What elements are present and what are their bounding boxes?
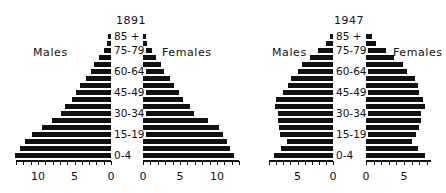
bar-males-30-34 bbox=[278, 111, 333, 116]
tick bbox=[305, 161, 306, 165]
bar-females-15-19 bbox=[366, 132, 416, 137]
bar-females-75-79 bbox=[366, 48, 386, 53]
bar-males-40-44 bbox=[276, 97, 333, 102]
bar-females-0-4 bbox=[366, 153, 425, 158]
tick bbox=[389, 161, 390, 165]
bar-females-35-39 bbox=[366, 104, 425, 109]
bar-males-15-19 bbox=[280, 132, 333, 137]
tick bbox=[283, 161, 284, 165]
bar-males-5-9 bbox=[281, 146, 333, 151]
x-axis-females bbox=[366, 160, 431, 162]
tick bbox=[319, 161, 320, 165]
pyramid-1947: 1947 Males Females 0-415-1930-3445-4960-… bbox=[0, 0, 446, 193]
tick bbox=[276, 161, 277, 165]
tick bbox=[366, 161, 367, 165]
bar-females-40-44 bbox=[366, 97, 423, 102]
bar-males-10-14 bbox=[287, 139, 333, 144]
bar-females-85 bbox=[366, 34, 372, 39]
bar-males-70-74 bbox=[310, 55, 333, 60]
tick-label: 0 bbox=[330, 170, 337, 183]
bar-females-45-49 bbox=[366, 90, 419, 95]
x-axis-males bbox=[269, 160, 333, 162]
age-label: 45-49 bbox=[335, 87, 368, 97]
bar-males-65-69 bbox=[302, 62, 333, 67]
age-label: 15-19 bbox=[335, 129, 368, 139]
bar-females-10-14 bbox=[366, 139, 412, 144]
bar-males-45-49 bbox=[283, 90, 333, 95]
bar-males-35-39 bbox=[275, 104, 333, 109]
bar-females-25-29 bbox=[366, 118, 421, 123]
bar-males-0-4 bbox=[274, 153, 333, 158]
tick bbox=[312, 161, 313, 165]
tick bbox=[374, 161, 375, 165]
bar-males-25-29 bbox=[278, 118, 333, 123]
tick-label: 5 bbox=[401, 170, 408, 183]
age-label: 0-4 bbox=[335, 150, 354, 160]
age-label: 75-79 bbox=[335, 45, 368, 55]
tick-label: 5 bbox=[294, 170, 301, 183]
age-label: 85 + bbox=[335, 31, 363, 41]
bar-males-20-24 bbox=[279, 125, 333, 130]
bar-females-30-34 bbox=[366, 111, 421, 116]
chart-title: 1947 bbox=[334, 14, 364, 27]
tick bbox=[396, 161, 397, 165]
tick bbox=[298, 161, 299, 165]
tick bbox=[326, 161, 327, 165]
bar-females-65-69 bbox=[366, 62, 403, 67]
males-label: Males bbox=[272, 46, 307, 59]
bar-males-60-64 bbox=[298, 69, 333, 74]
tick bbox=[381, 161, 382, 165]
bar-females-50-54 bbox=[366, 83, 418, 88]
bar-males-55-59 bbox=[291, 76, 333, 81]
age-label: 60-64 bbox=[335, 66, 368, 76]
bar-females-20-24 bbox=[366, 125, 419, 130]
tick-label: 0 bbox=[363, 170, 370, 183]
tick bbox=[427, 161, 428, 165]
bar-females-60-64 bbox=[366, 69, 407, 74]
bar-males-85 bbox=[330, 34, 333, 39]
tick bbox=[290, 161, 291, 165]
tick bbox=[419, 161, 420, 165]
tick bbox=[412, 161, 413, 165]
tick bbox=[269, 161, 270, 165]
bar-females-5-9 bbox=[366, 146, 418, 151]
tick bbox=[404, 161, 405, 165]
bar-females-55-59 bbox=[366, 76, 415, 81]
bar-females-70-74 bbox=[366, 55, 394, 60]
females-label: Females bbox=[393, 46, 443, 59]
bar-males-80-84 bbox=[326, 41, 333, 46]
tick bbox=[333, 161, 334, 165]
age-label: 30-34 bbox=[335, 108, 368, 118]
bar-males-75-79 bbox=[318, 48, 333, 53]
bar-males-50-54 bbox=[288, 83, 333, 88]
bar-females-80-84 bbox=[366, 41, 376, 46]
